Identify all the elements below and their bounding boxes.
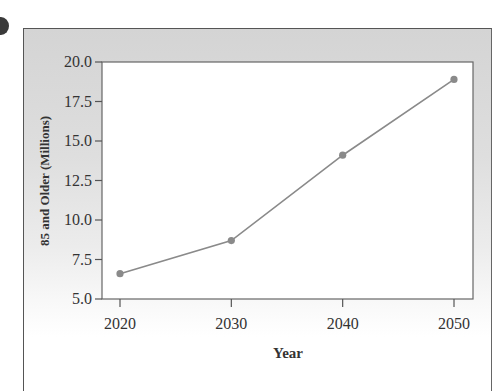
y-tick-label: 12.5 bbox=[64, 172, 92, 189]
data-point bbox=[339, 152, 346, 159]
y-tick-label: 10.0 bbox=[64, 211, 92, 228]
y-axis-title: 85 and Older (Millions) bbox=[37, 116, 52, 246]
x-tick-label: 2020 bbox=[104, 315, 136, 332]
data-point bbox=[450, 76, 457, 83]
x-tick-label: 2050 bbox=[438, 315, 470, 332]
x-axis-title: Year bbox=[273, 345, 303, 361]
y-tick-label: 20.0 bbox=[64, 53, 92, 70]
x-tick-label: 2040 bbox=[327, 315, 359, 332]
data-point bbox=[228, 237, 235, 244]
plot-area bbox=[102, 62, 473, 299]
y-axis: 5.07.510.012.515.017.520.0 bbox=[64, 53, 102, 307]
x-tick-label: 2030 bbox=[215, 315, 247, 332]
y-tick-label: 17.5 bbox=[64, 93, 92, 110]
data-point bbox=[116, 270, 123, 277]
x-axis: 2020203020402050 bbox=[104, 299, 470, 332]
y-tick-label: 5.0 bbox=[72, 290, 92, 307]
y-tick-label: 15.0 bbox=[64, 132, 92, 149]
y-tick-label: 7.5 bbox=[72, 251, 92, 268]
